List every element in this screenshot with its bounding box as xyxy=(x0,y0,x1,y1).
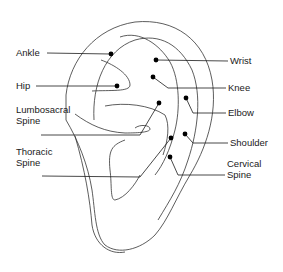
wrist-label-line: Wrist xyxy=(230,55,252,66)
hip-label: Hip xyxy=(16,80,30,91)
cervical-spine-dot xyxy=(168,155,173,160)
shoulder-dot xyxy=(183,132,188,137)
point-ankle: Ankle xyxy=(16,47,113,58)
point-elbow: Elbow xyxy=(184,96,254,118)
wrist-dot xyxy=(154,58,159,63)
ankle-label-line: Ankle xyxy=(16,47,40,58)
thoracic-spine-label-line: Thoracic xyxy=(16,146,53,157)
cervical-spine-label-line: Cervical xyxy=(227,158,261,169)
ear-outer-outline xyxy=(66,22,213,251)
lumbosacral-spine-dot xyxy=(157,101,162,106)
elbow-label: Elbow xyxy=(228,107,254,118)
antihelix-crus-outline xyxy=(105,104,168,155)
point-thoracic-spine: ThoracicSpine xyxy=(16,136,173,177)
hip-dot xyxy=(115,84,120,89)
wrist-leader-line xyxy=(156,60,228,61)
thoracic-spine-label: ThoracicSpine xyxy=(16,146,53,168)
lumbosacral-spine-label: LumbosacralSpine xyxy=(16,104,70,126)
ankle-dot xyxy=(109,52,114,57)
knee-dot xyxy=(151,75,156,80)
thoracic-spine-dot xyxy=(169,136,174,141)
helix-crus-outline xyxy=(75,114,150,133)
cervical-spine-label-line: Spine xyxy=(227,169,251,180)
antihelix-outline xyxy=(120,35,178,175)
ear-diagram: AnkleHipLumbosacralSpineThoracicSpineWri… xyxy=(0,0,283,272)
concha-outline xyxy=(110,140,140,200)
elbow-label-line: Elbow xyxy=(228,107,254,118)
elbow-leader-line xyxy=(186,98,226,113)
shoulder-label-line: Shoulder xyxy=(230,137,268,148)
ankle-label: Ankle xyxy=(16,47,40,58)
hip-label-line: Hip xyxy=(16,80,30,91)
lumbosacral-spine-label-line: Lumbosacral xyxy=(16,104,70,115)
wrist-label: Wrist xyxy=(230,55,252,66)
shoulder-label: Shoulder xyxy=(230,137,268,148)
point-wrist: Wrist xyxy=(154,55,252,66)
point-shoulder: Shoulder xyxy=(183,132,268,148)
cervical-spine-label: CervicalSpine xyxy=(227,158,261,180)
elbow-dot xyxy=(184,96,189,101)
points-layer: AnkleHipLumbosacralSpineThoracicSpineWri… xyxy=(16,47,268,180)
knee-label: Knee xyxy=(228,82,250,93)
ankle-leader-line xyxy=(47,53,111,54)
knee-label-line: Knee xyxy=(228,82,250,93)
knee-leader-line xyxy=(153,77,226,88)
thoracic-spine-leader-line xyxy=(42,138,171,177)
helix-inner-outline xyxy=(94,38,198,220)
lumbosacral-spine-label-line: Spine xyxy=(16,115,40,126)
thoracic-spine-label-line: Spine xyxy=(16,157,40,168)
cervical-spine-leader-line xyxy=(170,157,225,175)
point-knee: Knee xyxy=(151,75,251,93)
